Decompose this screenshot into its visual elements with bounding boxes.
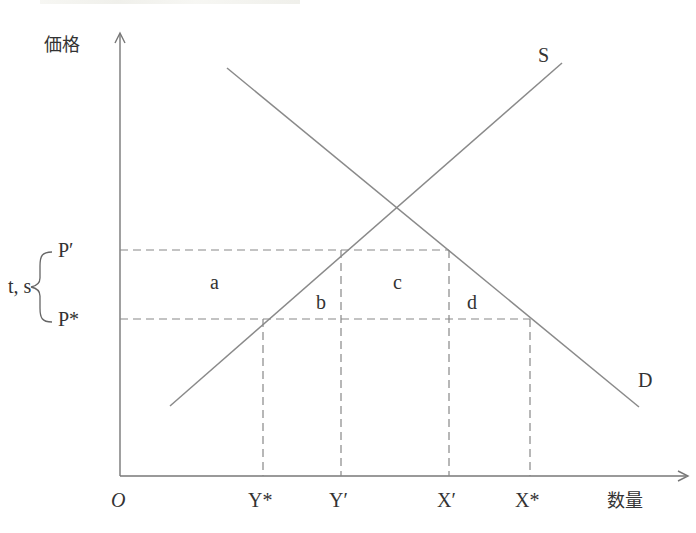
supply-demand-diagram — [0, 0, 696, 533]
supply-curve — [170, 63, 562, 406]
axes — [115, 33, 688, 481]
y-star-label: Y* — [248, 490, 272, 510]
curly-brace-icon — [31, 252, 52, 322]
bracket-label: t, s — [8, 276, 31, 296]
y-axis-label: 価格 — [44, 36, 80, 54]
area-c-label: c — [393, 272, 402, 292]
x-star-label: X* — [515, 490, 539, 510]
area-a-label: a — [210, 272, 219, 292]
p-prime-label: P′ — [58, 240, 74, 260]
origin-label: O — [111, 490, 125, 510]
y-prime-label: Y′ — [329, 490, 348, 510]
demand-curve — [227, 68, 639, 407]
area-d-label: d — [467, 292, 477, 312]
guide-lines — [120, 250, 530, 476]
x-prime-label: X′ — [437, 490, 456, 510]
area-b-label: b — [316, 292, 326, 312]
supply-label: S — [538, 45, 549, 65]
demand-label: D — [638, 370, 652, 390]
p-star-label: P* — [58, 309, 79, 329]
x-axis-label: 数量 — [607, 492, 643, 510]
